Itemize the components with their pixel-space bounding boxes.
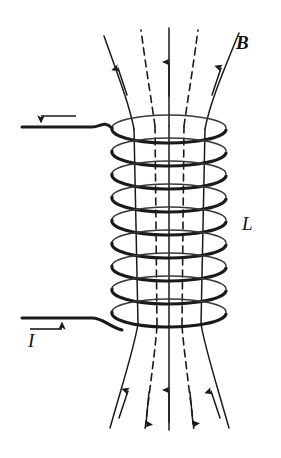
field-lines-bottom — [110, 324, 229, 430]
magnetic-field-label: B — [236, 33, 249, 52]
top-lead-wire — [22, 124, 112, 128]
field-line-bottom-inner-right-arrow-stem — [190, 392, 193, 424]
field-line-inside-left-dashed — [155, 126, 157, 326]
solenoid-figure: B L I — [0, 0, 281, 458]
inductance-length-label: L — [242, 214, 253, 233]
lead-wires — [22, 124, 122, 330]
field-lines-interior — [134, 126, 205, 326]
field-line-bottom-outer-right-arrow-stem — [211, 391, 220, 418]
field-line-inside-left — [134, 129, 138, 324]
field-line-top-inner-right-dashed — [184, 30, 198, 126]
diagram-canvas — [0, 0, 281, 458]
field-line-bottom-outer-left — [110, 324, 138, 428]
field-line-inside-right-dashed — [182, 126, 184, 326]
field-lines-top — [104, 28, 239, 129]
field-line-top-outer-left — [104, 36, 134, 129]
field-line-bottom-inner-left-arrow-stem — [146, 392, 149, 424]
field-line-top-outer-right — [205, 33, 239, 129]
field-line-top-inner-left-dashed — [141, 30, 155, 126]
field-line-top-outer-left-arrow-stem — [118, 68, 127, 95]
field-line-bottom-outer-right — [201, 324, 229, 428]
field-line-bottom-outer-left-arrow-stem — [119, 391, 128, 418]
current-label: I — [28, 331, 34, 350]
field-line-inside-right — [201, 129, 205, 324]
current-arrows — [30, 116, 76, 329]
